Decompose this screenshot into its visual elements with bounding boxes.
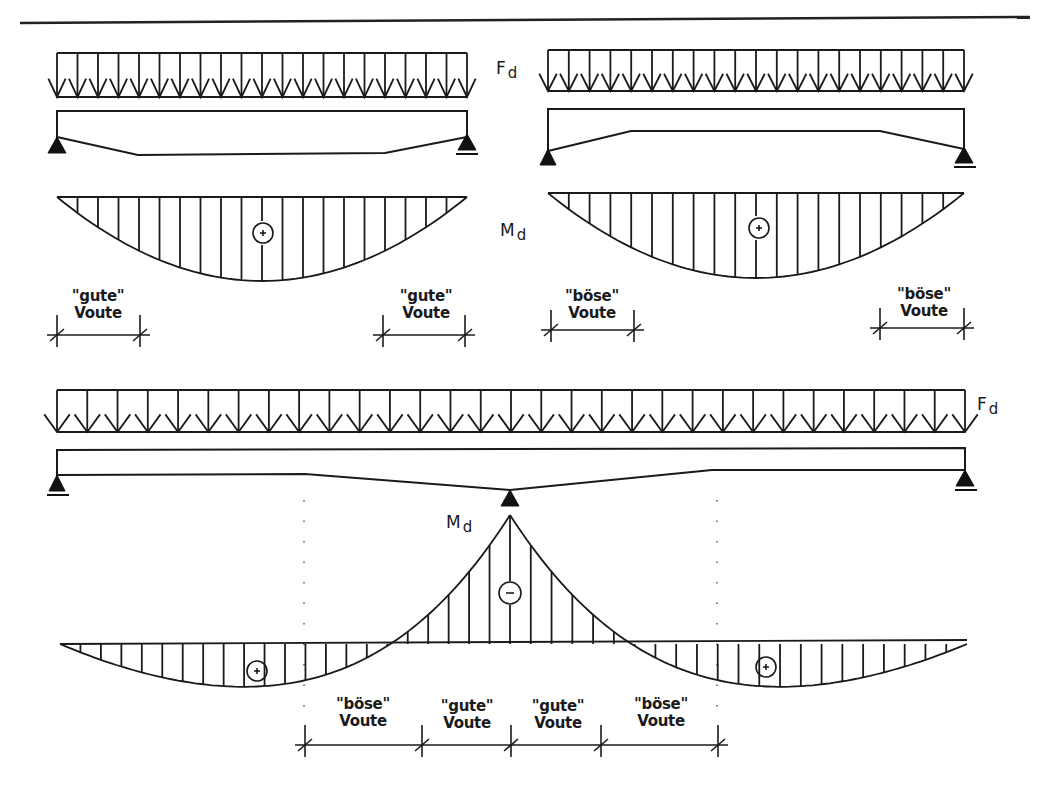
uniform-load-top-right	[539, 50, 972, 91]
moment-diagram-top-right	[548, 193, 964, 278]
support-icon	[954, 147, 976, 167]
haunch-dimension-lines-top	[47, 308, 974, 347]
moment-symbol-label: Md	[446, 514, 472, 531]
haunch-label: "böse"Voute	[603, 696, 719, 730]
support-icon	[955, 470, 977, 490]
haunch-label: "gute"Voute	[58, 288, 138, 322]
load-symbol-label: Fd	[496, 60, 517, 77]
moment-symbol-label: Md	[500, 222, 526, 239]
top-rule-divider	[20, 17, 1030, 23]
positive-sign-icon	[253, 223, 273, 243]
uniform-load-top-left	[48, 53, 475, 97]
support-icon	[47, 475, 69, 495]
haunch-label: "böse"Voute	[882, 286, 966, 320]
load-symbol-label: Fd	[977, 396, 998, 413]
haunch-label: "böse"Voute	[305, 696, 421, 730]
haunch-label: "böse"Voute	[550, 288, 634, 322]
haunch-label: "gute"Voute	[513, 698, 603, 732]
beam-top-right	[548, 109, 964, 152]
beam-top-left	[57, 111, 467, 155]
moment-diagram-bottom	[60, 515, 967, 687]
negative-sign-icon	[499, 582, 521, 604]
support-icon	[501, 490, 519, 506]
haunch-label: "gute"Voute	[423, 698, 511, 732]
positive-sign-icon	[749, 218, 769, 238]
beam-bottom	[57, 448, 965, 490]
support-icon	[456, 134, 478, 154]
uniform-load-bottom	[44, 390, 977, 432]
haunch-label: "gute"Voute	[384, 288, 468, 322]
moment-diagram-top-left	[57, 197, 467, 281]
support-icon	[540, 149, 556, 165]
structural-diagram	[0, 0, 1039, 808]
